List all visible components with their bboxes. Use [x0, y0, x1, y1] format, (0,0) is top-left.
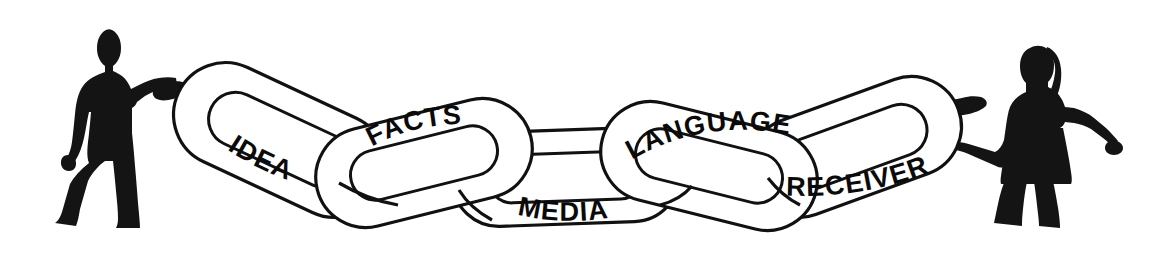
illustration-canvas: IDEA FACTS MEDIA LANGUAGE RECEIVER: [0, 0, 1151, 254]
communication-chain-illustration: IDEA FACTS MEDIA LANGUAGE RECEIVER: [0, 0, 1151, 254]
